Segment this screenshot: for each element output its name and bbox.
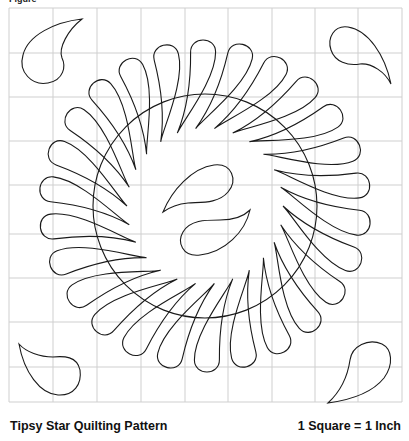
- feather-plume: [157, 283, 214, 368]
- pattern-title: Tipsy Star Quilting Pattern: [10, 419, 167, 433]
- feather-plume: [233, 77, 318, 133]
- feather-plume: [92, 279, 177, 335]
- feather-plume: [177, 40, 215, 133]
- feather-plume: [214, 57, 287, 129]
- feather-plume: [274, 170, 370, 198]
- corner-paisley-top-left: [22, 19, 82, 83]
- quilting-pattern-diagram: [0, 0, 409, 441]
- feather-plume: [40, 214, 136, 242]
- feather-plume: [50, 247, 147, 274]
- feather-plume: [281, 187, 370, 235]
- scale-note: 1 Square = 1 Inch: [298, 419, 401, 433]
- feather-plume: [230, 270, 256, 367]
- corner-paisley-bottom-left: [19, 344, 80, 395]
- feather-plume: [119, 58, 149, 154]
- inch-grid: [9, 8, 402, 402]
- feather-plume: [260, 258, 290, 354]
- feather-plume: [154, 45, 180, 142]
- feather-plume: [48, 141, 127, 206]
- feather-plume: [283, 206, 362, 271]
- feather-plume: [196, 44, 253, 129]
- corner-paisley-top-right: [330, 27, 391, 84]
- feather-plume: [194, 279, 232, 372]
- corner-paisley-bottom-right: [328, 342, 391, 403]
- center-paisley-upper: [163, 165, 233, 212]
- center-paisley-lower: [181, 210, 250, 255]
